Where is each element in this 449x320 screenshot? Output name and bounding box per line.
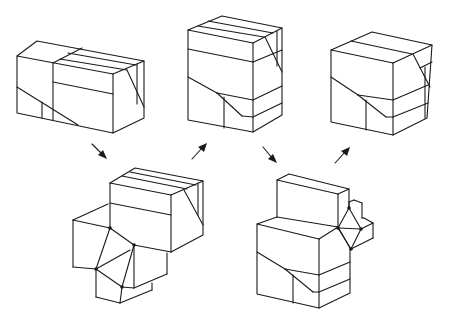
hinge-point (94, 267, 98, 271)
box-2 (188, 16, 282, 132)
arrow-up-right-2 (335, 147, 350, 163)
hinge-point (336, 226, 340, 230)
arrow-up-right-1 (192, 143, 207, 159)
assembly-1 (73, 168, 203, 303)
box-3 (331, 32, 432, 135)
hinge-point (132, 243, 136, 247)
arrow-down-right-2 (263, 147, 277, 163)
hinge-point (120, 285, 124, 289)
assembly-2 (257, 174, 373, 308)
hinge-point (108, 226, 112, 230)
arrow-down-right-1 (92, 144, 107, 159)
hinge-point (347, 206, 351, 210)
dissection-diagram (0, 0, 449, 320)
hinge-point (349, 247, 353, 251)
box-1 (17, 41, 144, 133)
hinge-point (359, 227, 363, 231)
